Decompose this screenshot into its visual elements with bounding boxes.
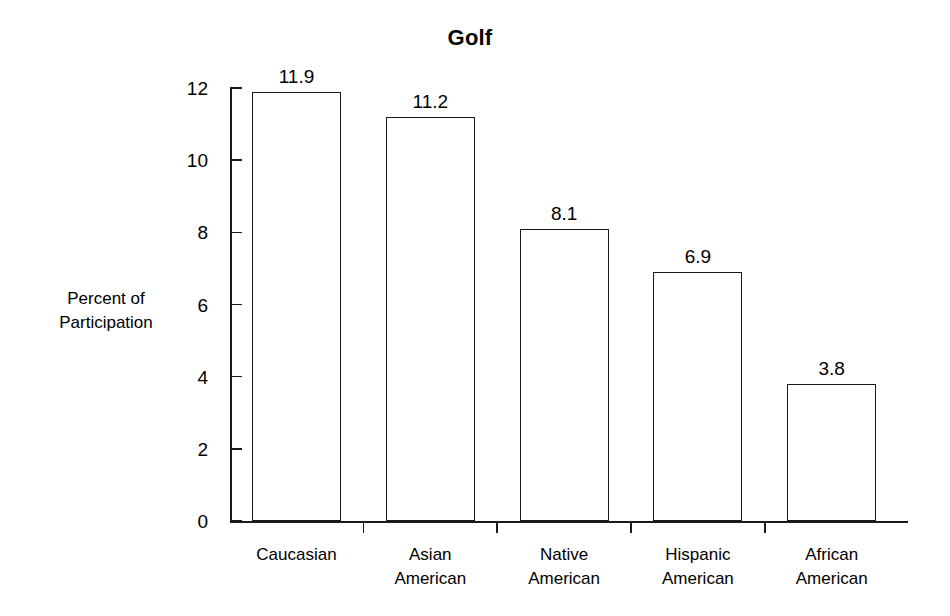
bar-value-label: 8.1 bbox=[551, 204, 577, 223]
x-tick bbox=[363, 521, 365, 533]
category-label: Native American bbox=[497, 543, 631, 591]
y-axis-label: Percent of Participation bbox=[16, 287, 196, 335]
y-tick: 10 bbox=[230, 159, 242, 161]
x-axis-line bbox=[230, 521, 908, 523]
y-tick-label: 0 bbox=[197, 512, 208, 531]
x-tick bbox=[496, 521, 498, 533]
bar: 3.8 bbox=[787, 384, 876, 521]
y-tick-label: 6 bbox=[197, 295, 208, 314]
x-tick bbox=[630, 521, 632, 533]
bar: 11.9 bbox=[252, 92, 341, 521]
x-tick bbox=[764, 521, 766, 533]
y-tick-label: 8 bbox=[197, 223, 208, 242]
y-tick: 12 bbox=[230, 87, 242, 89]
plot-area: 024681012 11.911.28.16.93.8 CaucasianAsi… bbox=[230, 88, 908, 521]
y-tick-label: 4 bbox=[197, 367, 208, 386]
y-tick: 4 bbox=[230, 376, 242, 378]
category-label: Caucasian bbox=[230, 543, 364, 567]
category-label: Hispanic American bbox=[631, 543, 765, 591]
y-tick-label: 12 bbox=[187, 79, 208, 98]
y-tick-label: 2 bbox=[197, 439, 208, 458]
bar: 6.9 bbox=[653, 272, 742, 521]
y-tick: 6 bbox=[230, 304, 242, 306]
category-label: Asian American bbox=[363, 543, 497, 591]
bar-value-label: 11.9 bbox=[279, 67, 315, 86]
y-tick: 2 bbox=[230, 448, 242, 450]
y-tick: 8 bbox=[230, 232, 242, 234]
bar-chart: Golf Percent of Participation 024681012 … bbox=[0, 0, 950, 616]
bar: 8.1 bbox=[520, 229, 609, 521]
bar-value-label: 3.8 bbox=[818, 359, 844, 378]
bar-value-label: 6.9 bbox=[685, 247, 711, 266]
category-label: African American bbox=[765, 543, 899, 591]
bar-value-label: 11.2 bbox=[413, 92, 449, 111]
chart-title: Golf bbox=[0, 27, 945, 49]
y-tick-label: 10 bbox=[187, 151, 208, 170]
y-tick: 0 bbox=[230, 520, 242, 522]
bar: 11.2 bbox=[386, 117, 475, 521]
